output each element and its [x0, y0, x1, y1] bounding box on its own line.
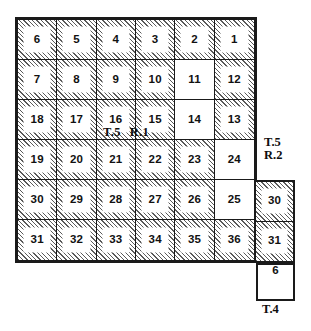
label-township-t4: T.4: [262, 303, 279, 316]
section-number: 8: [63, 67, 89, 91]
section-cell-32: 32: [57, 220, 96, 260]
township-block-t4: 6: [256, 263, 295, 301]
section-cell-13: 13: [215, 100, 254, 140]
section-number: 20: [63, 147, 89, 171]
section-cell-6: 6: [258, 265, 293, 277]
section-number: 36: [221, 228, 248, 253]
section-cell-8: 8: [57, 60, 96, 100]
section-cell-4: 4: [97, 20, 136, 60]
section-number: 5: [63, 27, 89, 51]
section-cell-9: 9: [97, 60, 136, 100]
section-cell-11: 11: [175, 60, 214, 100]
section-cell-33: 33: [97, 220, 136, 260]
section-grid-main: 6543217891011121817161514131920212223243…: [18, 20, 254, 260]
section-cell-14: 14: [175, 100, 214, 140]
section-number: 19: [24, 147, 50, 171]
section-cell-7: 7: [18, 60, 57, 100]
label-t5-r2-line2: R.2: [264, 149, 282, 162]
section-cell-29: 29: [57, 180, 96, 220]
section-cell-30: 30: [256, 182, 293, 222]
section-number: 31: [24, 228, 50, 253]
section-cell-27: 27: [136, 180, 175, 220]
section-cell-2: 2: [175, 20, 214, 60]
label-township-t5-r2: T.5 R.2: [264, 136, 282, 162]
section-number: 3: [142, 27, 168, 51]
section-cell-26: 26: [175, 180, 214, 220]
section-number: 13: [221, 107, 248, 131]
section-cell-28: 28: [97, 180, 136, 220]
section-number: 12: [221, 67, 248, 91]
section-cell-30: 30: [18, 180, 57, 220]
section-cell-22: 22: [136, 140, 175, 180]
section-number: 7: [24, 67, 50, 91]
section-cell-31: 31: [256, 222, 293, 262]
section-cell-23: 23: [175, 140, 214, 180]
section-cell-5: 5: [57, 20, 96, 60]
section-cell-1: 1: [215, 20, 254, 60]
section-cell-6: 6: [18, 20, 57, 60]
section-number: 28: [103, 187, 129, 211]
section-number: 21: [103, 147, 129, 171]
section-cell-10: 10: [136, 60, 175, 100]
section-number: 29: [63, 187, 89, 211]
township-block-t5-r1: 6543217891011121817161514131920212223243…: [15, 17, 257, 263]
section-number: 24: [215, 140, 254, 179]
section-cell-19: 19: [18, 140, 57, 180]
section-cell-12: 12: [215, 60, 254, 100]
label-t5-text: T.5: [103, 125, 121, 139]
section-number: 14: [175, 100, 213, 139]
section-number: 6: [258, 265, 293, 277]
section-cell-21: 21: [97, 140, 136, 180]
section-number: 25: [215, 180, 254, 219]
township-block-t5-r2: 3031: [256, 180, 295, 263]
section-number: 35: [181, 228, 207, 253]
section-number: 34: [142, 228, 168, 253]
section-number: 23: [181, 147, 207, 171]
section-cell-36: 36: [215, 220, 254, 260]
section-number: 27: [142, 187, 168, 211]
section-cell-25: 25: [215, 180, 254, 220]
section-number: 30: [262, 189, 287, 213]
section-cell-18: 18: [18, 100, 57, 140]
section-cell-24: 24: [215, 140, 254, 180]
section-number: 6: [24, 27, 50, 51]
section-number: 9: [103, 67, 129, 91]
section-number: 11: [175, 60, 213, 99]
section-cell-3: 3: [136, 20, 175, 60]
section-cell-20: 20: [57, 140, 96, 180]
section-number: 26: [181, 187, 207, 211]
section-number: 4: [103, 27, 129, 51]
section-number: 17: [63, 107, 89, 131]
section-number: 18: [24, 107, 50, 131]
section-cell-17: 17: [57, 100, 96, 140]
section-number: 31: [262, 229, 287, 253]
section-cell-35: 35: [175, 220, 214, 260]
section-number: 1: [221, 27, 248, 51]
diagram-canvas: 6543217891011121817161514131920212223243…: [0, 0, 311, 331]
section-number: 2: [181, 27, 207, 51]
section-number: 33: [103, 228, 129, 253]
section-cell-31: 31: [18, 220, 57, 260]
section-number: 22: [142, 147, 168, 171]
section-number: 30: [24, 187, 50, 211]
section-cell-34: 34: [136, 220, 175, 260]
section-number: 10: [142, 67, 168, 91]
label-township-t5-r1: T.5R.1: [103, 126, 149, 139]
label-r1-text: R.1: [130, 125, 149, 139]
section-number: 32: [63, 228, 89, 253]
